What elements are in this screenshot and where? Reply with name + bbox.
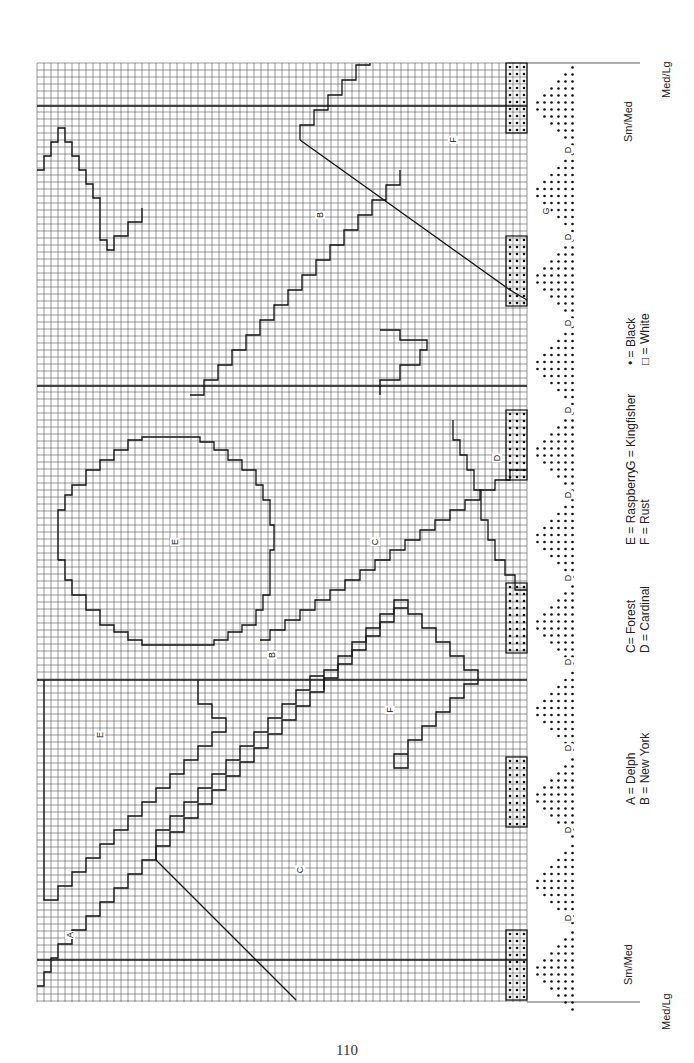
region-label-g: G xyxy=(541,206,551,215)
legend-col-1: A = Delph B = New York xyxy=(624,733,652,805)
region-label-b: B xyxy=(315,211,325,219)
region-label-d: D xyxy=(563,914,573,923)
region-b-diagonal xyxy=(190,170,400,395)
region-label-f: F xyxy=(385,706,395,714)
region-label-d: D xyxy=(563,233,573,242)
size-label-sm-med-bottom: Sm/Med xyxy=(622,944,635,985)
region-label-d: D xyxy=(563,319,573,328)
size-label-sm-med-top: Sm/Med xyxy=(622,101,635,142)
region-label-e: E xyxy=(170,538,180,546)
region-label-d: D xyxy=(563,826,573,835)
legend-g-kingfisher: G = Kingfisher xyxy=(624,394,638,470)
grid-lines xyxy=(37,63,527,1002)
legend-c-forest: C= Forest xyxy=(624,586,638,653)
legend-a-delph: A = Delph xyxy=(624,733,638,805)
legend-e-raspberry: E = Raspberry xyxy=(624,468,638,545)
region-label-d: D xyxy=(563,744,573,753)
region-label-d: D xyxy=(563,658,573,667)
legend-f-rust: F = Rust xyxy=(638,468,652,545)
region-label-d: D xyxy=(563,406,573,415)
region-label-e: E xyxy=(95,731,105,739)
region-label-c: C xyxy=(295,866,305,875)
legend-white-square: □ = White xyxy=(638,313,652,365)
page-number: 110 xyxy=(0,1042,694,1059)
legend-col-3: E = Raspberry F = Rust xyxy=(624,468,652,545)
legend-d-cardinal: D = Cardinal xyxy=(638,586,652,653)
region-label-f: F xyxy=(448,136,458,144)
region-f-lower xyxy=(300,140,527,300)
region-f-outline xyxy=(300,63,370,140)
dot-block-borders xyxy=(506,63,527,1000)
region-label-b: B xyxy=(267,651,277,659)
size-label-med-lg-bottom: Med/Lg xyxy=(660,993,673,1030)
region-label-d: D xyxy=(492,454,502,463)
legend-black-dot: • = Black xyxy=(624,313,638,365)
region-label-a: A xyxy=(65,931,75,939)
region-label-d: D xyxy=(563,574,573,583)
region-label-d: D xyxy=(563,146,573,155)
size-label-med-lg-top: Med/Lg xyxy=(660,61,673,98)
knitting-chart-grid xyxy=(0,0,694,1063)
legend-col-5: • = Black □ = White xyxy=(624,313,652,365)
region-label-d: D xyxy=(563,491,573,500)
legend-col-4: G = Kingfisher xyxy=(624,394,638,470)
region-e-oval xyxy=(58,437,274,645)
legend-col-2: C= Forest D = Cardinal xyxy=(624,586,652,653)
legend-b-new-york: B = New York xyxy=(638,733,652,805)
region-label-c: C xyxy=(370,538,380,547)
